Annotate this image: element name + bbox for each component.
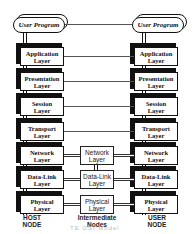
user-network-layer: Network Layer (134, 146, 178, 165)
network-host-to-intermediate-link (64, 154, 80, 157)
host-user-program: User Program (13, 17, 65, 33)
footer-faint-text: TE OSI Model (70, 225, 120, 231)
session-peer-link (64, 106, 134, 107)
presentation-peer-link (64, 81, 134, 82)
user-presentation-layer: Presentation Layer (134, 72, 178, 91)
user-user-program-label: User Program (133, 18, 183, 32)
user-session-layer: Session Layer (134, 97, 178, 116)
user-data-link-layer: Data-Link Layer (134, 170, 178, 189)
user-user-program: User Program (132, 17, 184, 33)
host-physical-layer: Physical Layer (20, 195, 64, 214)
physical-host-to-intermediate-link (64, 203, 80, 206)
intermediate-network-layer: Network Layer (80, 146, 114, 165)
host-node-caption: HOST NODE (20, 214, 44, 228)
user-transport-layer: Transport Layer (134, 122, 178, 141)
user-physical-layer: Physical Layer (134, 195, 178, 214)
transport-peer-link (64, 131, 134, 132)
host-user-program-label: User Program (14, 18, 64, 32)
physical-intermediate-to-user-link (114, 203, 134, 206)
host-transport-layer: Transport Layer (20, 122, 64, 141)
host-network-layer: Network Layer (20, 146, 64, 165)
user-program-link (65, 24, 132, 25)
intermediate-physical-layer: Physical Layer (80, 195, 114, 214)
host-data-link-layer: Data-Link Layer (20, 170, 64, 189)
user-node-caption: USER NODE (145, 214, 169, 228)
data-link-intermediate-to-user-link (114, 178, 134, 181)
host-session-layer: Session Layer (20, 97, 64, 116)
user-application-layer: Application Layer (134, 47, 178, 66)
host-presentation-layer: Presentation Layer (20, 72, 64, 91)
data-link-host-to-intermediate-link (64, 178, 80, 181)
intermediate-data-link-layer: Data-Link Layer (80, 170, 114, 189)
host-application-layer: Application Layer (20, 47, 64, 66)
network-intermediate-to-user-link (114, 154, 134, 157)
application-peer-link (64, 56, 134, 57)
